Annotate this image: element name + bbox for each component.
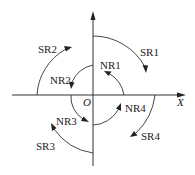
label-sr2: SR2 [38,43,57,55]
nr4-arrow-icon [116,103,121,111]
x-axis [12,93,186,98]
arc-nr2 [69,65,93,89]
arc-nr4 [93,103,121,125]
quadrant-diagram: SR2 SR1 NR1 NR2 O X NR4 NR3 SR4 SR3 [0,0,195,175]
label-sr3: SR3 [36,140,55,152]
diagram-svg: SR2 SR1 NR1 NR2 O X NR4 NR3 SR4 SR3 [0,0,195,175]
sr4-arrow-icon [130,131,138,137]
label-nr3: NR3 [56,115,77,127]
x-axis-label: X [176,96,185,108]
arc-sr3 [51,123,93,153]
arc-nr1 [104,71,124,95]
label-nr2: NR2 [50,74,71,86]
label-nr4: NR4 [125,102,146,114]
sr2-arrow-icon [64,46,72,52]
sr1-arrow-icon [143,65,149,73]
nr3-arrow-icon [81,117,89,123]
label-sr4: SR4 [141,130,160,142]
nr1-arrow-icon [104,71,112,76]
y-axis-arrow-icon [91,11,96,20]
label-nr1: NR1 [100,59,121,71]
label-sr1: SR1 [140,46,159,58]
origin-label: O [83,96,91,108]
y-axis [91,11,96,166]
